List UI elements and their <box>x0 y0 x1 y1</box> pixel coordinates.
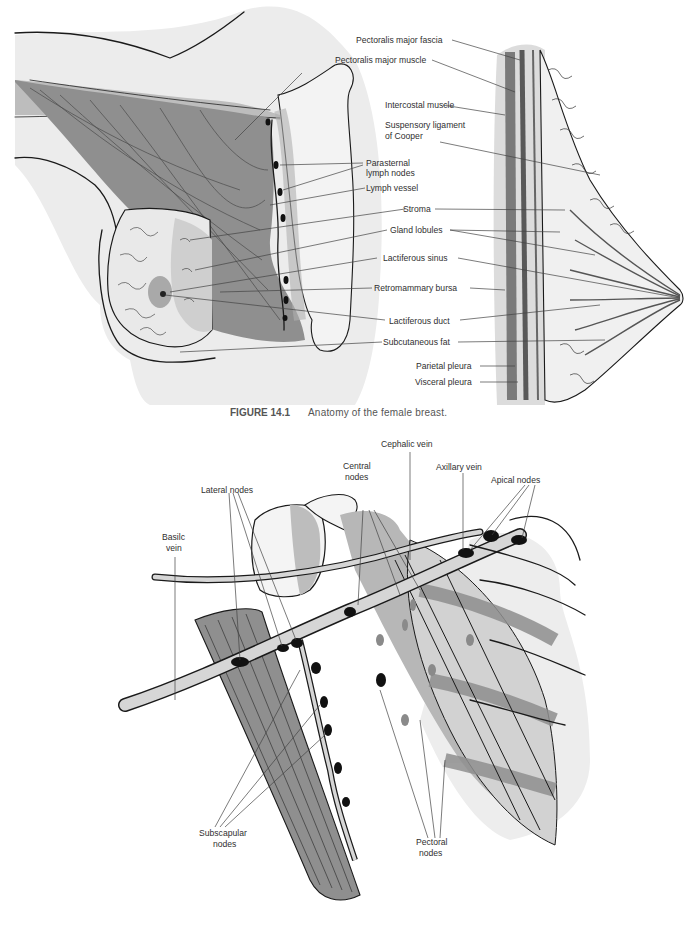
label-retromammary-bursa: Retromammary bursa <box>374 283 457 293</box>
label-lactiferous-sinus: Lactiferous sinus <box>383 253 448 263</box>
anatomy-figures: Pectoralis major fascia Pectoralis major… <box>0 0 699 948</box>
label-parasternal-lymph-nodes: Parasternal <box>366 158 410 168</box>
label-suspensory-ligament-line2: of Cooper <box>385 131 423 141</box>
label-central-nodes-line2: nodes <box>345 472 368 482</box>
label-pectoral-nodes-line2: nodes <box>419 848 442 858</box>
label-gland-lobules: Gland lobules <box>390 225 443 235</box>
label-pectoralis-major-fascia: Pectoralis major fascia <box>356 35 443 45</box>
label-apical-nodes: Apical nodes <box>491 475 540 485</box>
axillary-lymph-nodes-illustration <box>125 495 590 900</box>
label-parietal-pleura: Parietal pleura <box>416 361 472 371</box>
figure-14-1-caption: FIGURE 14.1 Anatomy of the female breast… <box>230 407 447 418</box>
label-intercostal-muscle: Intercostal muscle <box>385 100 454 110</box>
label-pectoralis-major-muscle: Pectoralis major muscle <box>335 55 426 65</box>
label-basilic-vein-line2: vein <box>166 543 182 553</box>
label-central-nodes: Central <box>343 461 371 471</box>
label-subscapular-nodes-line2: nodes <box>213 839 236 849</box>
label-basilic-vein: Basilc <box>162 532 186 542</box>
label-lymph-vessel: Lymph vessel <box>366 183 418 193</box>
label-cephalic-vein: Cephalic vein <box>381 439 433 449</box>
label-lateral-nodes: Lateral nodes <box>201 485 253 495</box>
breast-cross-section-illustration <box>494 45 683 405</box>
breast-front-view-illustration <box>15 6 382 405</box>
label-stroma: Stroma <box>403 204 431 214</box>
label-parasternal-lymph-nodes-line2: lymph nodes <box>366 168 415 178</box>
label-subcutaneous-fat: Subcutaneous fat <box>383 337 451 347</box>
caption-figure-number: FIGURE 14.1 <box>230 407 290 418</box>
label-visceral-pleura: Visceral pleura <box>415 377 472 387</box>
label-suspensory-ligament: Suspensory ligament <box>385 120 466 130</box>
label-pectoral-nodes: Pectoral <box>416 837 448 847</box>
label-axillary-vein: Axillary vein <box>436 462 482 472</box>
label-lactiferous-duct: Lactiferous duct <box>389 316 450 326</box>
label-subscapular-nodes: Subscapular <box>199 828 247 838</box>
caption-text: Anatomy of the female breast. <box>308 407 447 418</box>
